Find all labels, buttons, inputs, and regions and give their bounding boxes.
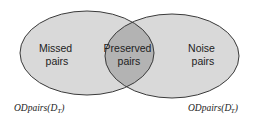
venn-diagram: Missed pairs Preserved pairs Noise pairs…	[0, 0, 259, 120]
right-set-label: ODpairs(D′T)	[188, 102, 238, 115]
noise-pairs-label: Noise pairs	[188, 42, 218, 67]
left-set-label: ODpairs(DT)	[14, 103, 64, 115]
